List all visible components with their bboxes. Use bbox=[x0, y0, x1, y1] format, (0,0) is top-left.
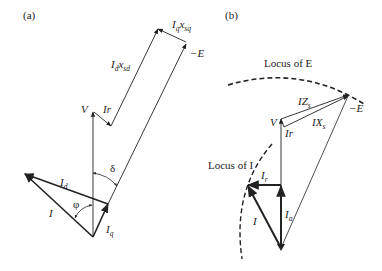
panel-b: (b) Locus of E Locus of I V Ir IZs IXs −… bbox=[208, 9, 364, 259]
vector-iq-xsq bbox=[158, 29, 186, 42]
label-v-b: V bbox=[270, 116, 278, 128]
label-v: V bbox=[81, 103, 89, 115]
panel-b-label: (b) bbox=[225, 9, 238, 22]
label-neg-e-b: −E bbox=[349, 102, 363, 114]
label-ir-b: Ir bbox=[284, 127, 294, 139]
panel-a-label: (a) bbox=[23, 9, 36, 22]
label-id: Id bbox=[59, 176, 68, 191]
label-ir-reactive: Ir bbox=[260, 169, 268, 184]
vector-i bbox=[25, 174, 93, 237]
label-neg-e: −E bbox=[190, 47, 204, 59]
locus-e-curve bbox=[228, 78, 364, 104]
vector-id-xsd bbox=[111, 29, 158, 126]
label-phi: φ bbox=[73, 198, 79, 210]
label-ixs: IXs bbox=[311, 116, 325, 131]
label-iq-xsq: Iqxsq bbox=[171, 18, 191, 33]
panel-a: (a) V Ir Idxsd Iqxsq −E Iq Id I δ φ bbox=[23, 9, 204, 238]
phasor-diagram: (a) V Ir Idxsd Iqxsq −E Iq Id I δ φ bbox=[0, 0, 382, 271]
label-i: I bbox=[48, 207, 54, 219]
angle-delta-arc bbox=[93, 173, 117, 186]
label-locus-e: Locus of E bbox=[264, 57, 313, 69]
label-ir: Ir bbox=[102, 103, 112, 115]
origin-marker-b bbox=[277, 244, 285, 251]
label-ia: Ia bbox=[284, 208, 293, 223]
label-id-xsd: Idxsd bbox=[110, 58, 130, 73]
label-locus-i: Locus of I bbox=[208, 159, 254, 171]
label-i-b: I bbox=[252, 215, 258, 227]
label-delta: δ bbox=[110, 162, 115, 174]
label-iq: Iq bbox=[105, 223, 114, 238]
label-izs: IZs bbox=[297, 95, 311, 110]
